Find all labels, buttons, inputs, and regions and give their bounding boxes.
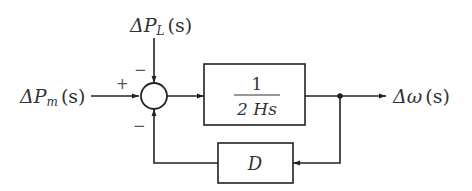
block-diagram: ΔPm(s) + ΔPL(s) − − 1 2 Hs Δω(s) D bbox=[0, 0, 472, 191]
transfer-denominator: 2 Hs bbox=[236, 99, 277, 119]
minus-sign-load: − bbox=[134, 61, 147, 79]
damping-label: D bbox=[247, 153, 263, 174]
plus-sign: + bbox=[116, 75, 129, 93]
output-label: Δω(s) bbox=[392, 85, 450, 107]
minus-sign-feedback: − bbox=[133, 117, 146, 135]
input-label-pm: ΔPm(s) bbox=[19, 85, 86, 109]
input-label-pl: ΔPL(s) bbox=[129, 14, 192, 38]
transfer-numerator: 1 bbox=[252, 74, 263, 94]
summing-junction bbox=[141, 83, 167, 109]
